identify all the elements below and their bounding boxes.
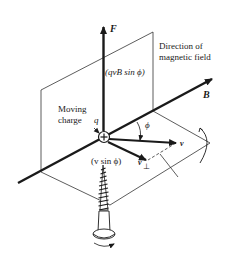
vertical-plane: [41, 32, 153, 172]
screw-icon: [93, 165, 115, 246]
b-field-axis: [18, 79, 212, 183]
charge-symbol-label: q: [94, 115, 99, 125]
moving-charge-label-1: Moving: [58, 104, 87, 114]
projection-dashed-line: [148, 143, 176, 160]
force-magnitude-label: (qvB sin ϕ): [105, 67, 145, 77]
magnetic-force-diagram: F (qvB sin ϕ) Direction of magnetic fiel…: [0, 0, 235, 263]
charge-pointer: [94, 128, 99, 133]
v-perp-magnitude-label: (v sin ϕ): [91, 156, 121, 166]
field-direction-label-2: magnetic field: [159, 52, 211, 62]
v-perp-subscript: ⊥: [143, 162, 150, 171]
hplane-front-left-edge: [41, 172, 110, 205]
force-label: F: [109, 23, 117, 34]
plane-top-edge: [41, 32, 153, 90]
b-field-label: B: [202, 89, 210, 100]
angle-phi-arc: [137, 122, 141, 140]
velocity-label: v: [180, 139, 184, 148]
charge-plus-icon: [99, 132, 110, 143]
hplane-perp-guide: [160, 154, 178, 177]
v-perp-label: v: [138, 158, 142, 167]
angle-phi-label: ϕ: [145, 120, 150, 130]
moving-charge-label-2: charge: [58, 115, 82, 125]
hplane-front-right-edge: [110, 143, 210, 205]
velocity-vector: [109, 139, 176, 143]
field-direction-label-1: Direction of: [159, 41, 203, 51]
